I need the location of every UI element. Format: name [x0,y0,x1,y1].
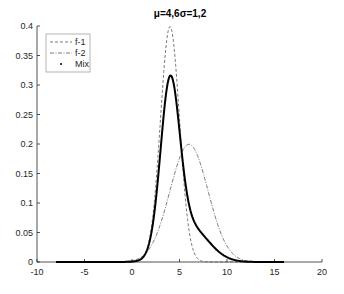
legend-f1-label: f-1 [75,37,86,47]
x-tick-label: 5 [177,267,182,277]
y-tick-label: 0.25 [15,110,33,120]
legend-mix-label: Mix [75,59,89,69]
y-tick-label: 0.15 [15,169,33,179]
series-mix-line [56,75,284,262]
y-tick-label: 0.1 [20,198,33,208]
y-tick-label: 0.05 [15,228,33,238]
series-f2-line [56,144,284,262]
y-tick-label: 0 [28,257,33,267]
x-tick-label: 20 [317,267,327,277]
legend-f2-label: f-2 [75,48,86,58]
x-tick-label: 15 [269,267,279,277]
y-tick-label: 0.4 [20,21,33,31]
y-tick-label: 0.35 [15,51,33,61]
y-tick-label: 0.3 [20,80,33,90]
y-tick-label: 0.2 [20,139,33,149]
chart: -10-50510152000.050.10.150.20.250.30.350… [0,0,344,294]
x-tick-label: -5 [80,267,88,277]
legend: f-1 f-2 Mix [46,34,90,72]
chart-title: μ=4,6σ=1,2 [154,8,207,19]
x-tick-label: 0 [129,267,134,277]
x-tick-label: -10 [30,267,43,277]
legend-mix-marker-icon [60,63,62,65]
x-tick-label: 10 [222,267,232,277]
